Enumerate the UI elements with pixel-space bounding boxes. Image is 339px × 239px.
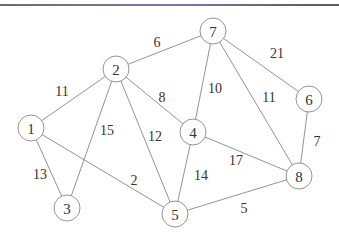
- node-label: 7: [209, 24, 217, 40]
- node-label: 2: [112, 62, 120, 78]
- edge-weight-4-5: 14: [194, 168, 208, 183]
- edge-weight-7-8: 11: [262, 90, 275, 105]
- node-2: 2: [103, 56, 129, 82]
- edge-weight-4-8: 17: [229, 153, 243, 168]
- edge-2-3: [67, 69, 116, 208]
- node-label: 3: [63, 201, 71, 217]
- node-7: 7: [200, 18, 226, 44]
- node-label: 8: [295, 169, 303, 185]
- node-label: 4: [189, 125, 197, 141]
- edge-weight-2-7: 6: [154, 35, 161, 50]
- edge-weight-2-4: 8: [159, 90, 166, 105]
- edge-2-4: [116, 69, 193, 132]
- node-label: 5: [171, 207, 179, 223]
- node-4: 4: [180, 119, 206, 145]
- edge-weight-6-8: 7: [314, 134, 321, 149]
- edges-group: [31, 31, 309, 214]
- edge-weight-7-6: 21: [270, 46, 284, 61]
- edge-weight-1-5: 2: [131, 173, 138, 188]
- edge-7-6: [213, 31, 309, 99]
- node-6: 6: [296, 86, 322, 112]
- edge-weight-1-2: 11: [55, 84, 68, 99]
- edge-1-2: [31, 69, 116, 128]
- edge-7-8: [213, 31, 299, 176]
- edge-2-5: [116, 69, 175, 214]
- graph-canvas: 62111810111512713217145 12345678: [0, 0, 339, 239]
- edge-4-8: [193, 132, 299, 176]
- edge-weight-5-8: 5: [241, 201, 248, 216]
- edge-weight-2-3: 15: [100, 123, 114, 138]
- edge-2-7: [116, 31, 213, 69]
- edge-weight-labels: 62111810111512713217145: [33, 35, 321, 216]
- node-1: 1: [18, 115, 44, 141]
- edge-weight-7-4: 10: [208, 81, 222, 96]
- node-5: 5: [162, 201, 188, 227]
- node-label: 6: [305, 92, 313, 108]
- edge-weight-2-5: 12: [148, 129, 162, 144]
- node-label: 1: [27, 121, 35, 137]
- edge-weight-1-3: 13: [33, 167, 47, 182]
- node-8: 8: [286, 163, 312, 189]
- node-3: 3: [54, 195, 80, 221]
